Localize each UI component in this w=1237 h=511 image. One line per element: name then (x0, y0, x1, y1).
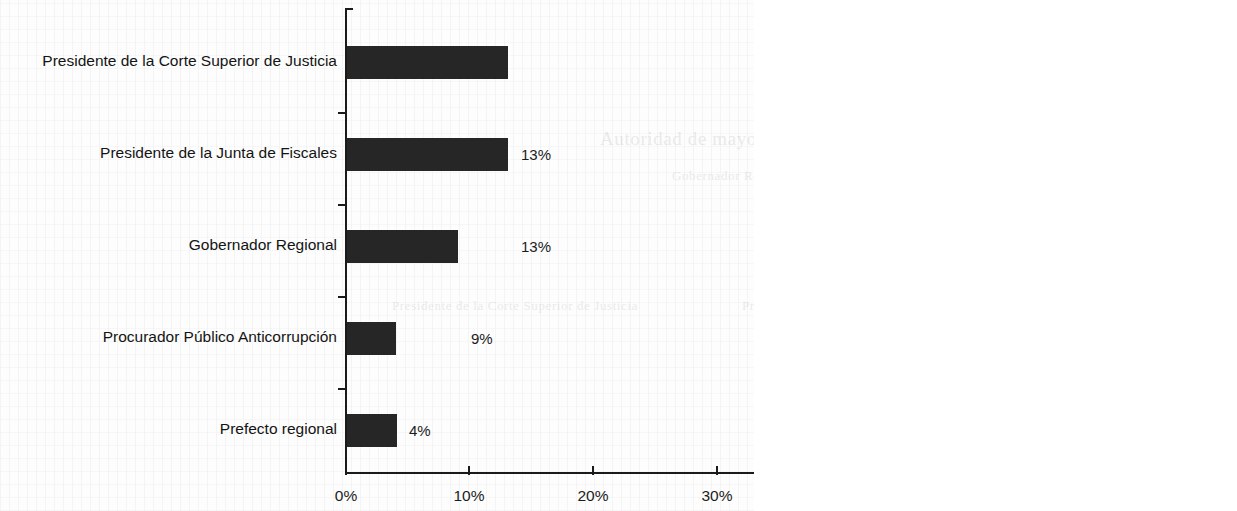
x-axis-tick-label-0: 0% (335, 487, 357, 505)
x-axis-tick-label-2: 20% (577, 487, 608, 505)
bar-prefecto-regional (347, 414, 397, 447)
bar-presidente-junta-fiscales (347, 138, 508, 171)
y-axis-label-0: Presidente de la Corte Superior de Justi… (0, 52, 337, 70)
x-axis-tick-label-3: 30% (701, 487, 732, 505)
bar-value-label-3: 9% (471, 330, 493, 347)
y-axis-tick (338, 112, 346, 114)
x-axis-tick (468, 466, 470, 475)
bar-value-label-4: 4% (409, 422, 431, 439)
x-axis-line (345, 472, 754, 474)
y-axis-tick (338, 204, 346, 206)
plot-area: 61% 13% 13% 9% 4% 0% 10% 20% 30% 40% 50%… (345, 8, 754, 472)
y-axis-label-2: Gobernador Regional (0, 236, 337, 254)
y-axis-label-1: Presidente de la Junta de Fiscales (0, 144, 337, 162)
y-axis-top-cap (345, 8, 353, 10)
y-axis-tick (338, 388, 346, 390)
bar-presidente-corte-superior (347, 46, 508, 79)
bar-gobernador-regional (347, 230, 458, 263)
bar-value-label-2: 13% (521, 238, 551, 255)
y-axis-tick (338, 296, 346, 298)
bar-value-label-1: 13% (521, 146, 551, 163)
x-axis-tick (592, 466, 594, 475)
y-axis-label-4: Prefecto regional (0, 420, 337, 438)
bar-chart-figure: Autoridad de mayor responsabilidad polit… (0, 0, 754, 511)
y-axis-label-3: Procurador Público Anticorrupción (0, 328, 337, 346)
x-axis-tick (716, 466, 718, 475)
bar-procurador-publico (347, 322, 396, 355)
x-axis-tick (345, 466, 347, 475)
x-axis-tick-label-1: 10% (453, 487, 484, 505)
